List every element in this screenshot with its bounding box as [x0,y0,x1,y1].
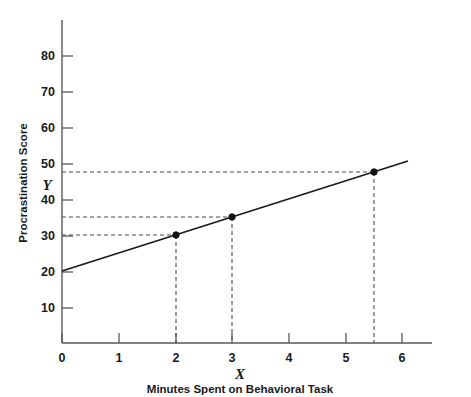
chart-canvas: 80 70 60 50 40 30 20 10 0 1 2 3 4 5 [0,0,471,397]
y-axis-variable: Y [42,177,53,193]
y-axis-title: Procrastination Score [17,123,29,243]
data-point [229,214,235,220]
x-tick-label: 0 [59,351,66,365]
x-tick-label: 2 [173,351,180,365]
cropped-footer-text [155,380,455,388]
y-tick-label: 40 [41,193,55,207]
x-tick-label: 4 [286,351,293,365]
data-point [173,232,179,238]
x-axis-tick-labels: 0 1 2 3 4 5 6 [59,351,406,365]
x-tick-label: 1 [116,351,123,365]
x-tick-label: 5 [343,351,350,365]
y-tick-label: 30 [41,229,55,243]
y-tick-label: 20 [41,265,55,279]
data-point [371,169,377,175]
y-tick-label: 10 [41,301,55,315]
y-tick-label: 70 [41,85,55,99]
x-tick-label: 3 [229,351,236,365]
guide-lines [62,172,374,343]
x-tick-label: 6 [399,351,406,365]
y-tick-label: 60 [41,121,55,135]
regression-chart: 80 70 60 50 40 30 20 10 0 1 2 3 4 5 [0,0,471,397]
y-tick-label: 50 [41,157,55,171]
y-tick-label: 80 [41,49,55,63]
